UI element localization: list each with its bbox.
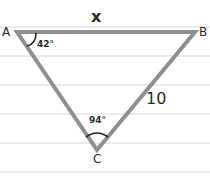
side-label-bc: 10 bbox=[146, 91, 166, 107]
vertex-label-b: B bbox=[199, 26, 207, 38]
side-label-ab: x bbox=[91, 9, 101, 25]
vertex-label-a: A bbox=[2, 26, 10, 38]
triangle-diagram bbox=[0, 0, 210, 182]
vertex-label-c: C bbox=[93, 153, 101, 165]
angle-label-c: 94° bbox=[89, 116, 106, 125]
angle-arc-a bbox=[27, 33, 36, 46]
triangle-abc bbox=[17, 32, 195, 150]
angle-label-a: 42° bbox=[37, 40, 54, 49]
